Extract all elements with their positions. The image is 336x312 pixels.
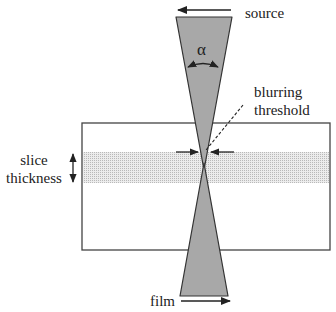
blurring-threshold-label: blurring threshold xyxy=(254,84,310,118)
film-label: film xyxy=(150,293,175,309)
slice-thickness-line1: slice xyxy=(4,152,64,168)
source-label: source xyxy=(245,5,284,21)
blurring-threshold-line2: threshold xyxy=(254,102,310,118)
blurring-threshold-line1: blurring xyxy=(254,84,310,100)
alpha-label: α xyxy=(197,42,206,58)
slice-thickness-line2: thickness xyxy=(4,170,64,186)
slice-thickness-label: slice thickness xyxy=(4,152,64,186)
